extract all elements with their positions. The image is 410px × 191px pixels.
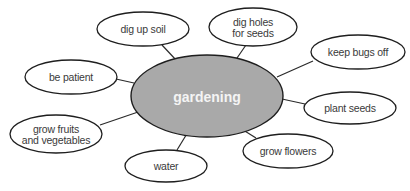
center-node-gardening: gardening xyxy=(131,55,283,137)
connector-dig-up-soil xyxy=(162,45,176,60)
connector-dig-holes-for-seeds xyxy=(237,45,246,58)
node-dig-holes-for-seeds: dig holesfor seeds xyxy=(209,8,297,46)
connector-keep-bugs-off xyxy=(277,61,313,77)
node-label: be patient xyxy=(49,71,93,83)
node-label: keep bugs off xyxy=(328,46,389,58)
node-label: plant seeds xyxy=(324,102,376,114)
node-label: and vegetables xyxy=(22,134,90,146)
node-water: water xyxy=(125,150,207,182)
node-grow-flowers: grow flowers xyxy=(243,134,333,168)
node-be-patient: be patient xyxy=(25,60,117,94)
node-label: grow flowers xyxy=(260,145,317,157)
gardening-concept-map: gardening dig up soildig holesfor seedsk… xyxy=(0,0,410,191)
node-keep-bugs-off: keep bugs off xyxy=(311,35,405,69)
connector-grow-fruits-and-vegetables xyxy=(100,111,141,125)
connector-plant-seeds xyxy=(282,99,305,104)
node-label: for seeds xyxy=(232,27,273,39)
node-dig-up-soil: dig up soil xyxy=(97,12,189,46)
node-label: dig up soil xyxy=(120,23,165,35)
node-grow-fruits-and-vegetables: grow fruitsand vegetables xyxy=(10,115,102,153)
node-label: water xyxy=(153,160,179,172)
connector-be-patient xyxy=(116,79,134,83)
node-plant-seeds: plant seeds xyxy=(304,92,396,124)
center-label: gardening xyxy=(173,89,241,105)
